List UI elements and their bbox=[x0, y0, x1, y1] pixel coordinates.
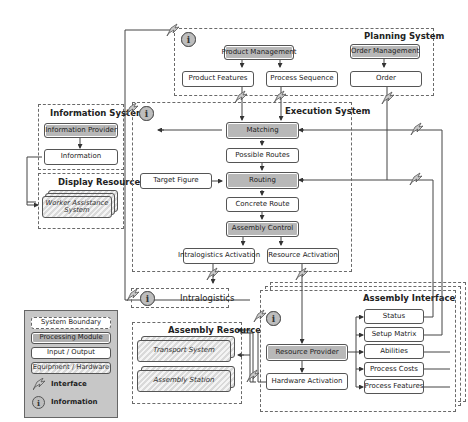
legend-system-boundary: System Boundary bbox=[31, 317, 111, 329]
interface-icon bbox=[410, 173, 422, 185]
interface-icon bbox=[296, 268, 308, 280]
interface-icon bbox=[127, 289, 139, 301]
interface-icon bbox=[274, 91, 286, 103]
interface-icon bbox=[126, 103, 138, 115]
legend: System Boundary Processing Module Input … bbox=[24, 310, 118, 418]
legend-interface-label: Interface bbox=[51, 380, 87, 388]
interface-icon bbox=[33, 378, 47, 392]
info-icon: i bbox=[139, 106, 154, 121]
interface-icon bbox=[411, 123, 423, 135]
info-icon: i bbox=[140, 291, 155, 306]
legend-processing-module: Processing Module bbox=[31, 332, 111, 344]
interface-icon bbox=[247, 370, 259, 382]
info-icon: i bbox=[266, 311, 281, 326]
info-icon: i bbox=[32, 396, 45, 409]
legend-input-output: Input / Output bbox=[31, 347, 111, 359]
interface-icon bbox=[382, 92, 394, 104]
interface-icon bbox=[167, 24, 179, 36]
legend-information-label: Information bbox=[51, 398, 97, 406]
interface-icon bbox=[254, 310, 266, 322]
info-icon: i bbox=[181, 32, 196, 47]
interface-icon bbox=[235, 91, 247, 103]
interface-icon bbox=[207, 268, 219, 280]
legend-equipment-hardware: Equipment / Hardware bbox=[31, 362, 111, 374]
